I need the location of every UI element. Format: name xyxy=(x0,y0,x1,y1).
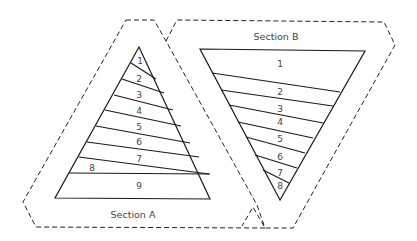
section-b-label: Section B xyxy=(254,31,299,42)
paper-piecing-pattern: 1 2 3 4 5 6 7 8 9 Section A 1 2 3 4 5 6 … xyxy=(0,0,417,241)
piece-number: 3 xyxy=(277,104,283,114)
piece-number: 6 xyxy=(277,152,283,162)
piece-number: 9 xyxy=(136,181,142,191)
section-a-piece-numbers: 1 2 3 4 5 6 7 8 9 xyxy=(89,56,143,191)
seam-line xyxy=(96,126,190,143)
seam-line xyxy=(212,73,340,92)
piece-number: 3 xyxy=(136,90,142,100)
section-a-triangle xyxy=(55,47,210,199)
piece-number: 7 xyxy=(136,154,142,164)
piece-number: 8 xyxy=(277,181,283,191)
section-a-label: Section A xyxy=(111,209,156,220)
seam-line xyxy=(229,105,323,123)
piece-number: 4 xyxy=(136,106,142,116)
piece-number: 7 xyxy=(277,168,283,178)
seam-line xyxy=(246,137,305,153)
piece-number: 5 xyxy=(136,122,142,132)
seam-line xyxy=(69,173,210,174)
piece-number: 5 xyxy=(277,134,283,144)
section-a-cutting-outline xyxy=(23,20,265,228)
piece-number: 1 xyxy=(277,59,283,69)
seam-line xyxy=(131,63,156,79)
piece-number: 6 xyxy=(136,137,142,147)
piece-number: 2 xyxy=(136,74,142,84)
seam-line xyxy=(255,155,297,168)
piece-number: 4 xyxy=(277,117,283,127)
seam-line xyxy=(114,95,173,110)
seam-line xyxy=(79,157,209,174)
seam-line xyxy=(238,122,313,138)
section-b-piece-numbers: 1 2 3 4 5 6 7 8 xyxy=(277,59,283,191)
piece-number: 2 xyxy=(277,87,283,97)
piece-number: 8 xyxy=(89,163,95,173)
piece-number: 1 xyxy=(137,56,143,66)
seam-line xyxy=(87,142,199,157)
